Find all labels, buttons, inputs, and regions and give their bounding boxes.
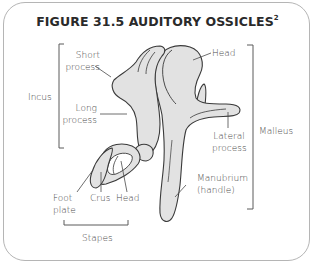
foot-plate-label-line1: Foot: [53, 192, 76, 204]
stapes-bracket: [64, 220, 128, 225]
manubrium-label: Manubrium (handle): [197, 172, 248, 196]
long-process-label: Long process: [60, 102, 97, 126]
manubrium-label-line2: (handle): [197, 184, 248, 196]
short-process-label-line1: Short: [64, 49, 100, 61]
stapes-label: Stapes: [82, 232, 113, 244]
malleus-head-label: Head: [212, 47, 236, 59]
crus-label: Crus: [90, 192, 110, 204]
lateral-process-label-line1: Lateral: [212, 130, 246, 142]
long-process-label-line2: process: [60, 114, 97, 126]
lateral-process-label-line2: process: [212, 142, 246, 154]
manubrium-label-line1: Manubrium: [197, 172, 248, 184]
foot-plate-label: Foot plate: [53, 192, 76, 216]
incus-label: Incus: [28, 91, 52, 103]
malleus-label: Malleus: [259, 125, 293, 137]
short-process-label: Short process: [64, 49, 100, 73]
stapes-head-label: Head: [116, 192, 140, 204]
incus-bone: [112, 46, 165, 155]
long-process-label-line1: Long: [60, 102, 97, 114]
short-process-label-line2: process: [64, 61, 100, 73]
lateral-process-label: Lateral process: [212, 130, 246, 154]
foot-plate-label-line2: plate: [53, 204, 76, 216]
